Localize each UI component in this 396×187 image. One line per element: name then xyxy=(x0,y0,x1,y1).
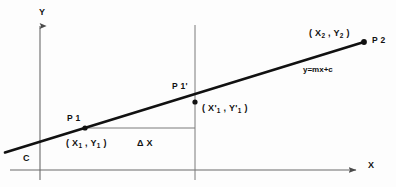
coord-p2-close: ) xyxy=(344,28,350,38)
x-axis-label: X xyxy=(368,161,374,170)
line-equation-diagram: Y X C P 1 P 1' P 2 ( X1 , Y1 ) ( X'1 , Y… xyxy=(0,0,396,187)
coord-p1p-mid: , Y' xyxy=(221,103,238,113)
delta-x-label: Δ X xyxy=(137,139,153,148)
point-p2-marker xyxy=(361,39,367,45)
intercept-label-c: C xyxy=(23,154,30,163)
point-label-p2: P 2 xyxy=(372,36,386,45)
coordinate-label-p2: ( X2 , Y2 ) xyxy=(309,29,350,39)
line-y-equals-mx-plus-c xyxy=(5,42,364,153)
coord-p2-mid: , Y xyxy=(325,28,340,38)
point-p1-prime-marker xyxy=(192,99,197,104)
coordinate-label-p1: ( X1 , Y1 ) xyxy=(66,139,107,149)
point-label-p1-prime: P 1' xyxy=(172,82,188,91)
coord-p1-open: ( X xyxy=(66,138,78,148)
y-axis-label: Y xyxy=(39,8,45,17)
coord-p1-close: ) xyxy=(101,138,107,148)
coord-p1-mid: , Y xyxy=(82,138,97,148)
coord-p2-open: ( X xyxy=(309,28,321,38)
point-p1-marker xyxy=(82,125,87,130)
coord-p1p-open: ( X' xyxy=(202,103,217,113)
equation-label: y=mx+c xyxy=(303,66,333,74)
coordinate-label-p1-prime: ( X'1 , Y'1 ) xyxy=(202,104,248,114)
coord-p1p-close: ) xyxy=(242,103,248,113)
point-label-p1: P 1 xyxy=(67,114,81,123)
